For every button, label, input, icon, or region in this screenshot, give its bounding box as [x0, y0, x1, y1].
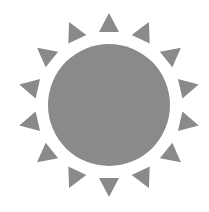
sun-icon [0, 0, 209, 212]
sun-ray [37, 48, 58, 68]
sun-ray [160, 48, 181, 68]
sun-ray [132, 22, 150, 43]
sun-ray [19, 79, 40, 98]
sun-ray [160, 143, 181, 163]
sun-disc [48, 44, 170, 166]
sun-ray [178, 111, 199, 130]
sun-illustration [0, 0, 209, 212]
sun-ray [178, 79, 199, 98]
sun-ray [68, 22, 86, 43]
sun-ray [37, 143, 58, 163]
sun-ray [99, 13, 119, 32]
sun-ray [99, 178, 119, 197]
sun-ray [19, 111, 40, 130]
sun-ray [68, 166, 86, 187]
sun-ray [132, 166, 150, 187]
